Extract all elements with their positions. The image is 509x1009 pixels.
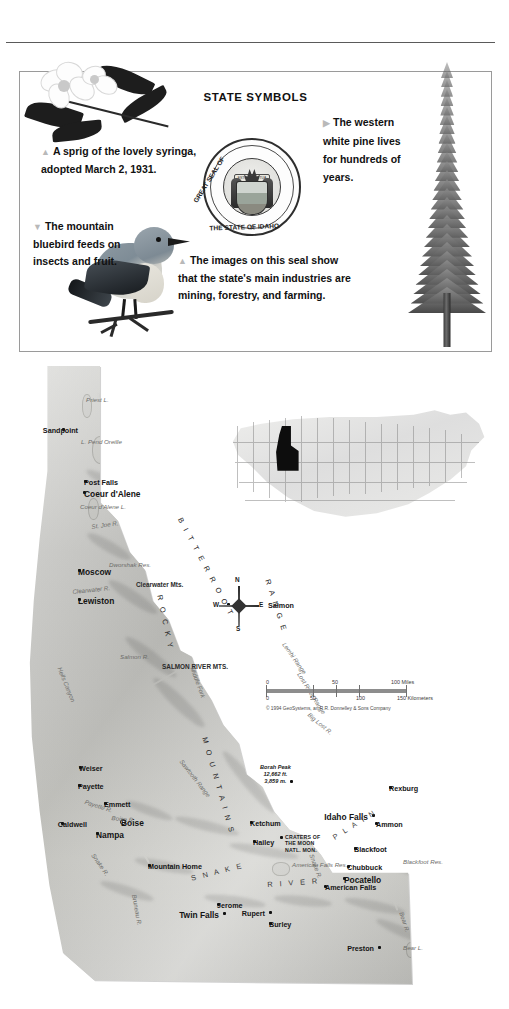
terrain-ridge [274,893,333,909]
terrain-ridge [321,740,368,793]
state-boundary-line [413,426,414,488]
state-boundary-line [429,428,430,486]
triangle-up-icon: ▲ [178,253,187,270]
city-label-caldwell: Caldwell [58,820,87,829]
pine-trunk [444,293,451,347]
map-feature-label: Bear L. [403,944,423,951]
state-boundary-line [461,434,462,478]
caption-syringa-text: A sprig of the lovely syringa, adopted M… [41,145,196,175]
scale-km-50: 50 [310,695,316,701]
compass-rose: N E S W [215,578,263,634]
state-boundary-line [235,462,475,463]
city-label-hailey: Hailey [253,838,274,847]
city-label-rupert: Rupert [242,909,265,918]
lake-shape [272,862,290,876]
triangle-up-icon: ▲ [41,144,50,161]
caption-pine-text: The western white pine lives for hundred… [323,116,401,183]
map-feature-label: Salmon R. [120,653,149,660]
city-label-jerome: Jerome [217,901,243,910]
map-feature-label: Clearwater Mts. [136,581,183,588]
city-label-sandpoint: Sandpoint [43,426,78,435]
city-dot [269,911,272,914]
caption-bluebird: ▼The mountain bluebird feeds on insects … [33,218,153,270]
map-feature-label: Dworshak Res. [109,561,151,568]
caption-syringa: ▲A sprig of the lovely syringa, adopted … [41,143,201,178]
caption-bluebird-text: The mountain bluebird feeds on insects a… [33,220,121,267]
state-boundary-line [233,442,479,443]
borah-peak-elev-m: 3,859 m. [260,778,291,785]
state-boundary-line [317,418,318,498]
city-label-coeur-d-alene: Coeur d'Alene [84,489,140,499]
compass-north-label: N [235,576,240,583]
state-boundary-line [239,482,467,483]
compass-east-label: E [259,601,263,608]
triangle-down-icon: ▼ [33,219,42,236]
borah-peak-label: Borah Peak12,662 ft.3,859 m. [260,764,291,784]
scale-miles-0: 0 [266,679,269,685]
map-copyright: © 1994 GeoSystems, an R.R. Donnelley & S… [266,706,391,711]
terrain-ridge [344,895,407,918]
terrain-ridge [122,422,186,472]
borah-peak-name: Borah Peak [260,764,291,771]
scale-km-0: 0 [266,695,269,701]
city-label-mountain-home: Mountain Home [148,862,202,871]
craters-of-the-moon-label: CRATERS OF THE MOON NATL. MON. [285,834,320,853]
city-label-rexburg: Rexburg [389,784,418,793]
city-dot [378,946,381,949]
syringa-flower-illustration [22,60,177,155]
city-label-twin-falls: Twin Falls [179,910,219,920]
river-line [380,863,399,911]
state-boundary-line [237,426,238,488]
header-rule [6,42,495,43]
seal-bottom-text: THE STATE OF IDAHO [209,222,279,231]
scale-miles-50: 50 [332,679,338,685]
caption-pine: ▶The western white pine lives for hundre… [323,113,405,186]
idaho-state-seal-illustration: GREAT SEAL OF THE STATE OF IDAHO ESTO PE… [203,138,301,236]
united-states-locator-inset [225,408,487,520]
city-label-moscow: Moscow [78,567,111,577]
city-label-american-falls: American Falls [325,883,376,892]
terrain-ridge [236,665,277,738]
terrain-ridge [149,428,189,452]
city-label-blackfoot: Blackfoot [354,845,387,854]
city-dot [223,912,226,915]
map-feature-label: Priest L. [86,396,109,403]
scale-km-100: 100 [356,695,365,701]
seal-star-icon: ☆ [249,223,256,232]
map-feature-label: Blackfoot Res. [403,858,443,865]
state-boundary-line [245,500,455,501]
caption-seal-text: The images on this seal show that the st… [178,254,351,301]
state-boundary-line [365,422,366,494]
triangle-right-icon: ▶ [323,114,330,132]
seal-shield [236,181,268,215]
borah-peak-elev-ft: 12,662 ft. [260,771,291,778]
park-dot [280,836,283,839]
city-label-post-falls: Post Falls [84,478,118,487]
map-feature-label: Coeur d'Alene L. [80,503,126,510]
city-label-nampa: Nampa [96,830,124,840]
western-white-pine-illustration [404,62,490,347]
state-boundary-line [333,418,334,496]
map-feature-label: L. Pend Oreille [81,438,122,445]
state-boundary-line [269,420,270,498]
scale-miles-100: 100 Miles [391,679,414,685]
city-label-burley: Burley [269,920,291,929]
city-label-payette: Payette [78,782,104,791]
map-feature-label: American Falls Res. [292,861,347,868]
state-boundary-line [301,416,302,502]
city-label-chubbuck: Chubbuck [347,863,382,872]
terrain-ridge [99,878,155,905]
idaho-state-map: SandpointPost FallsCoeur d'AleneMoscowLe… [0,360,509,1000]
state-boundary-line [397,424,398,490]
terrain-ridge [85,529,134,564]
idaho-atlas-page: STATE SYMBOLS GREAT SEAL OF THE STATE OF… [0,0,509,1009]
city-label-ammon: Ammon [376,820,403,829]
compass-south-label: S [236,625,240,632]
scale-km-150: 150 Kilometers [397,695,433,701]
caption-seal: ▲The images on this seal show that the s… [178,252,353,304]
state-boundary-line [445,430,446,482]
city-label-lewiston: Lewiston [78,596,114,606]
compass-west-label: W [213,601,219,608]
city-label-weiser: Weiser [79,764,102,773]
city-label-preston: Preston [347,944,374,953]
